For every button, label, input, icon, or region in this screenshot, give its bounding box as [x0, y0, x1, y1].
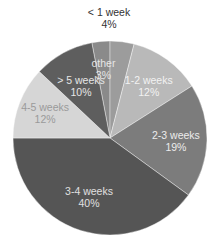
pie-chart: other3%< 1 week4%1-2 weeks12%2-3 weeks19… — [0, 0, 217, 252]
slice-percent: 40% — [78, 197, 99, 209]
slice-percent: 4% — [101, 18, 116, 30]
slice-label: < 1 week — [88, 6, 131, 18]
slice-label: other — [91, 57, 115, 69]
slice-percent: 12% — [35, 113, 56, 125]
slice-percent: 10% — [71, 86, 92, 98]
slice-percent: 19% — [165, 141, 186, 153]
slice-label: 1-2 weeks — [125, 74, 173, 86]
slice-label: > 5 weeks — [57, 74, 105, 86]
slice-percent: 12% — [138, 86, 159, 98]
slice-label: 4-5 weeks — [21, 101, 69, 113]
slice-label: 3-4 weeks — [65, 185, 113, 197]
slice-label: 2-3 weeks — [152, 129, 200, 141]
